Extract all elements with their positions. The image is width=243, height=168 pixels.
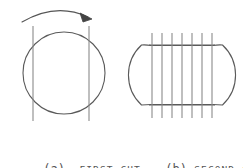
first-cut-diagram xyxy=(0,0,121,136)
rotation-arrow-arc xyxy=(22,11,88,22)
workpiece-circle xyxy=(23,32,105,114)
caption-second-cut: (b) SECOND CUT xyxy=(122,136,243,158)
figure-container: (a) FIRST CUT (b) SECOND CUT xyxy=(0,0,243,168)
rotation-arrow-icon xyxy=(22,11,92,22)
panel-second-cut: (b) SECOND CUT xyxy=(122,0,243,168)
caption-tag: (a) xyxy=(43,162,65,168)
panel-first-cut: (a) FIRST CUT xyxy=(0,0,121,168)
caption-label: SECOND CUT xyxy=(194,164,243,168)
caption-first-cut: (a) FIRST CUT xyxy=(0,136,121,158)
second-cut-diagram xyxy=(122,0,243,136)
rotation-arrow-head xyxy=(80,13,92,22)
caption-tag: (b) xyxy=(165,162,187,168)
